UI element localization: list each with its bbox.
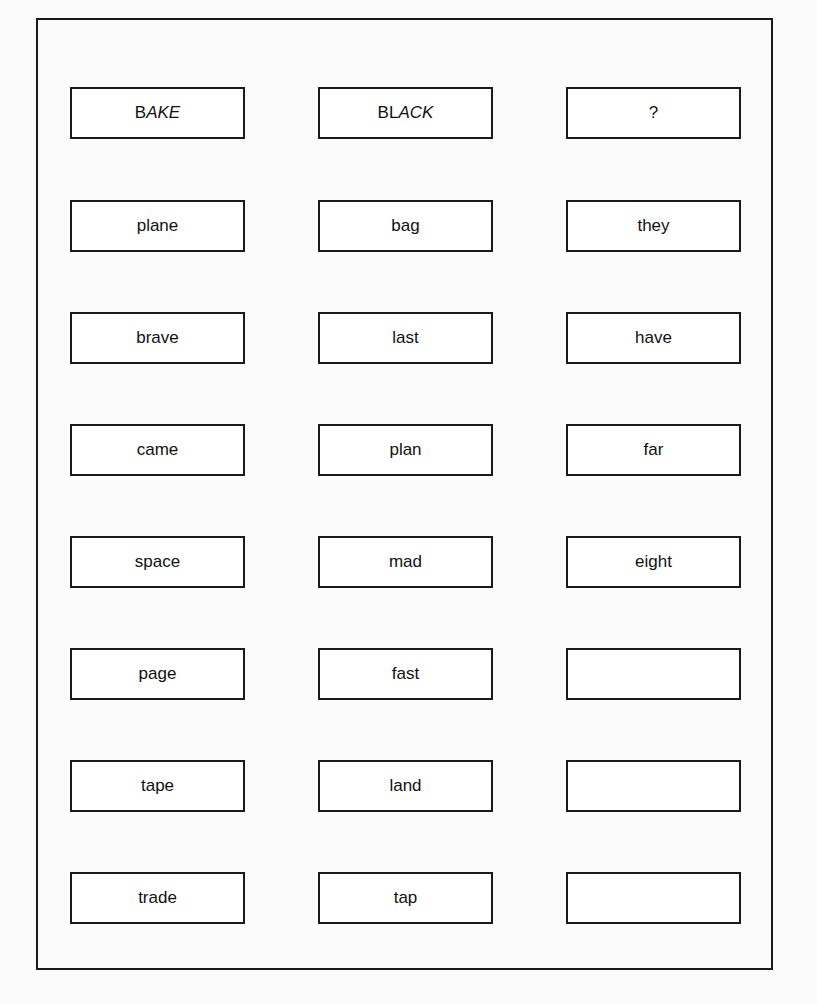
header-cell-bake: BAKE: [70, 87, 245, 139]
word-card: bag: [318, 200, 493, 252]
word-text: came: [137, 440, 179, 460]
word-text: they: [637, 216, 669, 236]
word-card-empty: [566, 872, 741, 924]
header-word-prefix: BL: [378, 103, 399, 123]
word-card: trade: [70, 872, 245, 924]
word-text: plan: [389, 440, 421, 460]
word-text: bag: [391, 216, 419, 236]
word-card: brave: [70, 312, 245, 364]
word-card: have: [566, 312, 741, 364]
word-card: last: [318, 312, 493, 364]
word-text: mad: [389, 552, 422, 572]
word-card: land: [318, 760, 493, 812]
header-word-prefix: ?: [649, 103, 658, 123]
word-text: plane: [137, 216, 179, 236]
word-card: plane: [70, 200, 245, 252]
word-sort-frame: [36, 18, 773, 970]
word-card: fast: [318, 648, 493, 700]
header-word-suffix: AKE: [146, 103, 180, 123]
word-text: land: [389, 776, 421, 796]
word-text: last: [392, 328, 418, 348]
word-card: space: [70, 536, 245, 588]
word-card: came: [70, 424, 245, 476]
word-card: far: [566, 424, 741, 476]
word-text: have: [635, 328, 672, 348]
word-text: far: [644, 440, 664, 460]
word-card: eight: [566, 536, 741, 588]
word-card: page: [70, 648, 245, 700]
word-text: fast: [392, 664, 419, 684]
word-card: mad: [318, 536, 493, 588]
header-cell-black: BLACK: [318, 87, 493, 139]
header-cell-oddball: ?: [566, 87, 741, 139]
header-word-suffix: ACK: [398, 103, 433, 123]
word-text: brave: [136, 328, 179, 348]
word-text: trade: [138, 888, 177, 908]
header-word-prefix: B: [135, 103, 146, 123]
word-card: they: [566, 200, 741, 252]
word-card-empty: [566, 760, 741, 812]
word-text: tap: [394, 888, 418, 908]
word-text: space: [135, 552, 180, 572]
word-text: tape: [141, 776, 174, 796]
word-card: tape: [70, 760, 245, 812]
word-card-empty: [566, 648, 741, 700]
word-card: tap: [318, 872, 493, 924]
word-text: page: [139, 664, 177, 684]
word-card: plan: [318, 424, 493, 476]
word-text: eight: [635, 552, 672, 572]
